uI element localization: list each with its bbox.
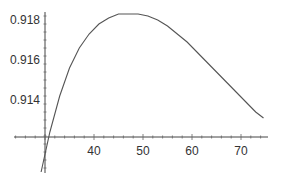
x-tick-label: 60	[185, 144, 199, 158]
chart-canvas: 405060700.9140.9160.918	[0, 0, 284, 179]
y-tick-label: 0.916	[10, 53, 40, 67]
data-series-curve	[41, 14, 263, 172]
y-tick-label: 0.918	[10, 13, 40, 27]
x-tick-label: 70	[234, 144, 248, 158]
y-tick-label: 0.914	[10, 93, 40, 107]
x-tick-label: 40	[87, 144, 101, 158]
line-chart: 405060700.9140.9160.918	[0, 0, 284, 179]
x-tick-label: 50	[136, 144, 150, 158]
